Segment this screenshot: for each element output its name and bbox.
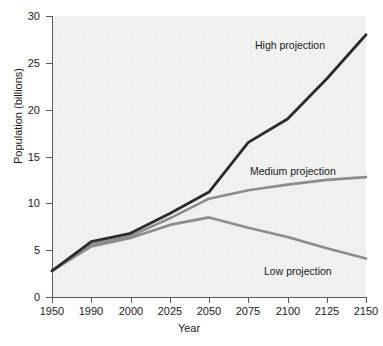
x-axis-title: Year (0, 322, 378, 334)
annotation-low-projection: Low projection (264, 266, 332, 277)
high-projection-line (52, 35, 366, 271)
annotation-medium-projection: Medium projection (250, 166, 336, 177)
y-axis-title: Population (billions) (12, 36, 24, 196)
annotation-high-projection: High projection (255, 40, 325, 51)
